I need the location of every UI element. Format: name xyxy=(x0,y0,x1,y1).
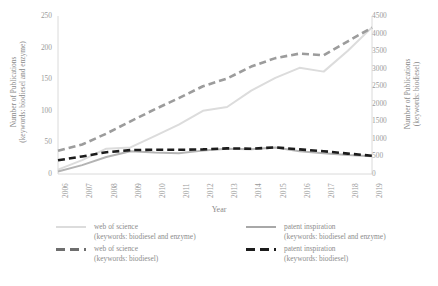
legend-entry-line1: web of science xyxy=(94,244,158,254)
x-axis-tick-label: 2011 xyxy=(182,183,191,198)
x-axis-tick-label: 2006 xyxy=(61,183,70,198)
series-lines xyxy=(58,16,372,174)
x-axis-tick-label: 2013 xyxy=(230,183,239,198)
chart-legend: web of science(keywords: biodiesel and e… xyxy=(0,220,438,282)
legend-entry: web of science(keywords: biodiesel and e… xyxy=(94,222,196,241)
legend-swatch xyxy=(246,248,276,251)
chart-figure: Number of Publications (keywords: biodie… xyxy=(0,0,438,286)
x-axis-title: Year xyxy=(0,205,438,214)
legend-swatch xyxy=(56,226,86,228)
legend-entry-line1: patent inspiration xyxy=(284,244,348,254)
x-axis-tick-label: 2008 xyxy=(110,183,119,198)
x-axis-tick-label: 2010 xyxy=(158,183,167,198)
x-axis-tick-label: 2007 xyxy=(85,183,94,198)
legend-entry-line2: (keywords: biodiesel) xyxy=(94,254,158,264)
x-axis-tick-label: 2015 xyxy=(279,183,288,198)
legend-swatch xyxy=(56,248,86,251)
legend-entry: web of science(keywords: biodiesel) xyxy=(94,244,158,263)
x-axis-tick-label: 2009 xyxy=(134,183,143,198)
x-axis-tick-label: 2014 xyxy=(254,183,263,198)
legend-entry: patent inspiration(keywords: biodiesel a… xyxy=(284,222,386,241)
x-axis-tick-label: 2018 xyxy=(351,183,360,198)
legend-entry-line2: (keywords: biodiesel) xyxy=(284,254,348,264)
legend-entry-line1: web of science xyxy=(94,222,196,232)
legend-entry-line1: patent inspiration xyxy=(284,222,386,232)
legend-entry-line2: (keywords: biodiesel and enzyme) xyxy=(284,232,386,242)
x-axis-tick-label: 2017 xyxy=(327,183,336,198)
legend-swatch xyxy=(246,226,276,228)
x-axis-tick-label: 2019 xyxy=(375,183,384,198)
x-axis-tick-label: 2016 xyxy=(303,183,312,198)
plot-area xyxy=(58,16,372,174)
legend-entry: patent inspiration(keywords: biodiesel) xyxy=(284,244,348,263)
legend-entry-line2: (keywords: biodiesel and enzyme) xyxy=(94,232,196,242)
series-line xyxy=(58,28,372,151)
x-axis-tick-label: 2012 xyxy=(206,183,215,198)
